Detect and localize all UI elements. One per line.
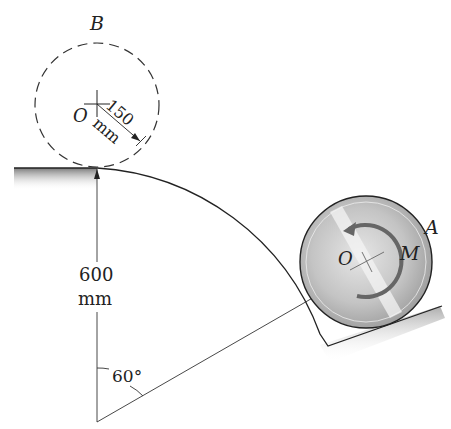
angle-indicator [97,296,316,422]
disc-b-initial-position [35,43,159,167]
label-center-a: O [338,250,353,268]
label-moment: M [400,244,419,263]
label-position-a: A [425,218,439,237]
diagram-canvas [0,0,451,429]
label-center-b: O [73,107,88,125]
label-height-value: 600 [79,266,113,284]
label-height-unit: mm [78,290,112,308]
label-position-b: B [90,14,104,33]
label-angle: 60° [112,368,142,385]
